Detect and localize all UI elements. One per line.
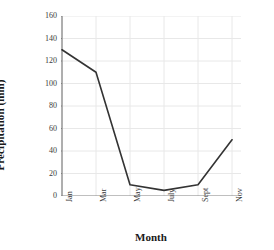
plot-area xyxy=(61,16,241,196)
y-tick-label: 20 xyxy=(49,170,57,178)
y-tick-label: 0 xyxy=(53,192,57,200)
precipitation-data-line xyxy=(62,50,232,191)
y-axis-title: Precipitation (mm) xyxy=(0,0,18,250)
y-tick-label: 140 xyxy=(45,35,57,43)
x-tick-label: Sept xyxy=(201,188,210,202)
horizontal-gridlines xyxy=(62,16,241,174)
x-tick-label: Jan xyxy=(65,191,74,202)
chart-svg xyxy=(61,16,241,196)
x-axis-title: Month xyxy=(61,231,241,243)
y-axis-tick-labels: 020406080100120140160 xyxy=(30,16,57,196)
x-tick-label: July xyxy=(167,189,176,202)
x-tick-label: Mar xyxy=(99,189,108,202)
x-tick-label: Nov xyxy=(235,188,244,202)
y-tick-label: 60 xyxy=(49,125,57,133)
x-axis-tick-labels: JanMarMayJulySeptNov xyxy=(61,200,241,230)
y-tick-label: 100 xyxy=(45,80,57,88)
precipitation-line-chart: Precipitation (mm) 020406080100120140160… xyxy=(0,0,274,250)
y-tick-label: 120 xyxy=(45,57,57,65)
x-tick-label: May xyxy=(133,187,142,202)
y-tick-label: 40 xyxy=(49,147,57,155)
y-tick-label: 160 xyxy=(45,12,57,20)
y-tick-label: 80 xyxy=(49,102,57,110)
